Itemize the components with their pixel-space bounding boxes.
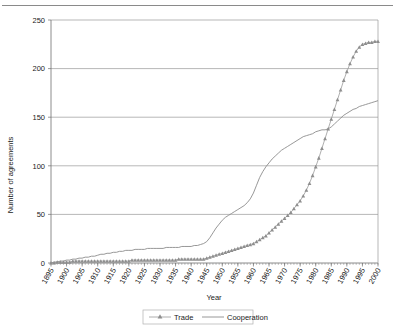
x-tick-label: 1960 xyxy=(242,267,258,286)
data-point-marker xyxy=(320,146,324,150)
gridlines xyxy=(51,20,378,214)
y-tick-label: 50 xyxy=(37,210,45,219)
y-axis-tick-labels: 050100150200250 xyxy=(32,16,45,268)
data-point-marker xyxy=(317,156,321,160)
x-tick-label: 1975 xyxy=(289,267,305,286)
x-tick-label: 1955 xyxy=(226,267,242,286)
legend-label-cooperation: Cooperation xyxy=(227,313,268,322)
data-point-marker xyxy=(326,127,330,131)
data-point-marker xyxy=(311,174,315,178)
x-tick-label: 1900 xyxy=(55,267,71,286)
legend-label-trade: Trade xyxy=(174,313,193,322)
y-tick-marks xyxy=(48,20,51,263)
x-tick-label: 1995 xyxy=(351,267,367,286)
x-tick-label: 1945 xyxy=(195,267,211,286)
data-point-marker xyxy=(348,62,352,66)
data-point-marker xyxy=(323,137,327,141)
chart-figure: 050100150200250 189519001905191019151920… xyxy=(0,0,395,336)
chart-canvas: 050100150200250 189519001905191019151920… xyxy=(0,0,395,336)
data-point-marker xyxy=(301,194,305,198)
line-chart: 050100150200250 189519001905191019151920… xyxy=(0,0,395,336)
x-axis-tick-labels: 1895190019051910191519201925193019351940… xyxy=(40,267,383,286)
data-point-marker xyxy=(351,55,355,59)
data-point-marker xyxy=(333,108,337,112)
x-tick-label: 1980 xyxy=(304,267,320,286)
x-tick-label: 1905 xyxy=(71,267,87,286)
y-tick-label: 250 xyxy=(32,16,45,25)
x-tick-label: 1985 xyxy=(320,267,336,286)
data-point-marker xyxy=(336,98,340,102)
data-point-marker xyxy=(345,70,349,74)
data-point-marker xyxy=(261,236,265,240)
x-tick-label: 1920 xyxy=(117,267,133,286)
x-tick-label: 1895 xyxy=(40,267,56,286)
data-point-marker xyxy=(304,188,308,192)
y-tick-label: 150 xyxy=(32,113,45,122)
y-tick-label: 100 xyxy=(32,162,45,171)
chart-legend: Trade Cooperation xyxy=(143,310,268,324)
x-tick-label: 2000 xyxy=(367,267,383,286)
data-point-marker xyxy=(255,240,259,244)
x-tick-label: 1965 xyxy=(258,267,274,286)
data-point-marker xyxy=(308,181,312,185)
x-tick-label: 1940 xyxy=(180,267,196,286)
x-tick-label: 1990 xyxy=(335,267,351,286)
x-tick-label: 1950 xyxy=(211,267,227,286)
data-point-marker xyxy=(329,117,333,121)
x-tick-label: 1925 xyxy=(133,267,149,286)
y-tick-label: 0 xyxy=(41,259,45,268)
data-point-marker xyxy=(342,78,346,82)
x-tick-label: 1935 xyxy=(164,267,180,286)
data-point-marker xyxy=(339,88,343,92)
x-tick-label: 1910 xyxy=(86,267,102,286)
x-axis-title: Year xyxy=(206,293,222,302)
data-point-marker xyxy=(252,242,256,246)
data-point-marker xyxy=(314,165,318,169)
y-axis-title: Number of agreements xyxy=(6,136,15,213)
x-tick-label: 1970 xyxy=(273,267,289,286)
x-tick-marks xyxy=(51,263,378,267)
x-tick-label: 1915 xyxy=(102,267,118,286)
y-tick-label: 200 xyxy=(32,64,45,73)
series-line-cooperation xyxy=(51,101,378,263)
x-tick-label: 1930 xyxy=(149,267,165,286)
data-point-marker xyxy=(258,238,262,242)
